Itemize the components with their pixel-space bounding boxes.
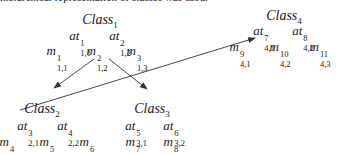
class4-method-1: m94,1 [229,40,250,68]
class4-method-3: m114,3 [309,40,330,68]
class1-method-1: m11,1 [46,44,67,72]
class2-method-3: m62,3 [79,135,100,155]
class3-label: Class3 [134,102,170,119]
class1-method-2: m21,2 [86,44,107,72]
class2-method-2: m52,2 [39,135,60,155]
class-name: Class [82,12,113,27]
class-name: Class [24,101,55,116]
class1-method-3: m31,3 [126,44,147,72]
class-name: Class [134,101,165,116]
class4-method-2: m104,2 [269,40,290,68]
class2-method-1: m42,1 [0,135,21,155]
class3-method-2: m83,2 [163,135,184,155]
class-name: Class [266,8,297,23]
class3-method-1: m73,1 [125,135,146,155]
class2-label: Class2 [24,102,60,119]
